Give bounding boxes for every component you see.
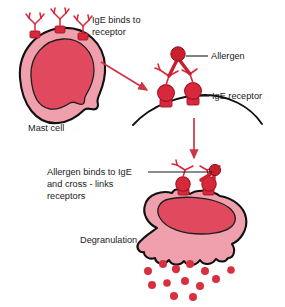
ige-receptor-circle-right xyxy=(185,83,202,100)
granule xyxy=(186,260,194,268)
ige-antibody-left-stage3 xyxy=(172,160,193,177)
granule xyxy=(172,265,180,273)
arrow-stage1-to-stage2 xyxy=(101,62,147,90)
label-ige-receptor: IgE receptor xyxy=(212,91,262,101)
diagram-canvas: Mast cell IgE binds to receptor xyxy=(0,0,285,307)
granule xyxy=(196,282,204,290)
granule xyxy=(170,292,178,300)
receptor-base-icon xyxy=(30,31,40,38)
label-degranulation: Degranulation xyxy=(80,235,137,245)
label-allergen: Allergen xyxy=(211,51,245,61)
label-cross-links-line2: and cross - links xyxy=(47,179,114,189)
label-ige-binds-line1: IgE binds to xyxy=(92,15,141,25)
allergen-icon xyxy=(171,47,185,61)
annotation-ige-binds-to-receptor: IgE binds to receptor xyxy=(92,15,141,37)
allergen-icon-stage3 xyxy=(209,164,220,175)
ige-receptor-circle-left xyxy=(158,85,175,102)
ige-antibody-icon xyxy=(51,8,69,26)
stage-allergen-binding-membrane: Allergen IgE receptor xyxy=(133,47,262,125)
label-cross-links-line1: Allergen binds to IgE xyxy=(47,167,132,177)
granule xyxy=(148,281,156,289)
granule xyxy=(201,267,209,275)
granule xyxy=(227,266,235,274)
granule xyxy=(189,293,197,301)
receptor-base-icon xyxy=(55,26,65,33)
label-ige-binds-line2: receptor xyxy=(92,27,126,37)
ige-antibody-icon xyxy=(26,13,44,31)
granule-group xyxy=(144,260,235,301)
ige-receptor-circle-left-stage3 xyxy=(176,177,190,191)
granule xyxy=(181,277,189,285)
receptor-base-icon xyxy=(78,33,88,40)
granule xyxy=(144,267,152,275)
mast-cell-nucleus xyxy=(31,39,94,109)
label-cross-links-line3: receptors xyxy=(47,191,86,201)
granule xyxy=(159,260,167,268)
label-mast-cell: Mast cell xyxy=(28,123,64,133)
granule xyxy=(212,275,220,283)
granule xyxy=(163,279,171,287)
mast-cell-degranulation-diagram: Mast cell IgE binds to receptor xyxy=(0,0,285,307)
